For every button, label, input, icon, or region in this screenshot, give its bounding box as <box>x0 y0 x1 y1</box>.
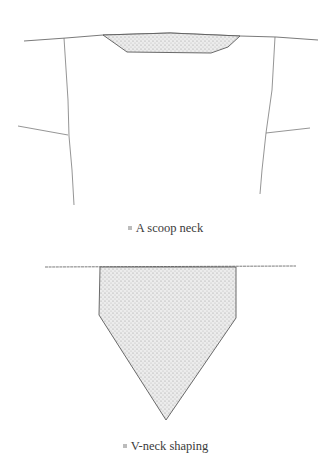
right-sleeve-line <box>266 128 310 133</box>
caption-v-neck: V-neck shaping <box>0 439 331 454</box>
caption-v-neck-text: V-neck shaping <box>131 439 209 453</box>
left-body-edge <box>64 38 74 205</box>
caption-scoop-neck: A scoop neck <box>0 221 331 236</box>
scoop-neck-figure <box>18 33 318 205</box>
v-neck-shaded-area <box>99 267 236 420</box>
right-body-edge <box>260 37 275 194</box>
left-sleeve-line <box>18 126 68 135</box>
v-neck-figure <box>45 266 296 420</box>
caption-scoop-neck-text: A scoop neck <box>136 221 203 235</box>
bullet-icon <box>123 444 127 448</box>
bullet-icon <box>128 226 132 230</box>
scoop-neck-shaded-area <box>103 33 240 53</box>
